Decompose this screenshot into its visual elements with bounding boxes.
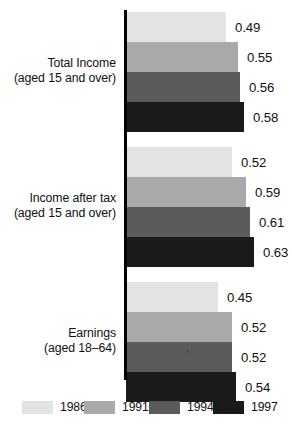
asterisk-annotation: * [186, 349, 189, 357]
bar-group: Earnings(aged 18–64)0.450.520.520.54 [0, 282, 292, 402]
legend-swatch-1994 [149, 401, 180, 414]
bar-value-label: 0.49 [235, 20, 260, 35]
bar-group: Total Income(aged 15 and over)0.490.550.… [0, 12, 292, 132]
legend-item-1991: 1991 [84, 396, 149, 418]
legend-label-1986: 1986 [60, 400, 87, 414]
legend-item-1994: 1994 [149, 396, 214, 418]
bar-1986 [126, 282, 218, 312]
bar-1997 [126, 102, 244, 132]
bar-group: Income after tax(aged 15 and over)0.520.… [0, 147, 292, 267]
bar-row: 0.58 [126, 102, 292, 132]
bar-value-label: 0.45 [227, 290, 252, 305]
legend-item-1986: 1986 [22, 396, 87, 418]
bar-1994 [126, 72, 240, 102]
legend-item-1997: 1997 [213, 396, 278, 418]
category-label: Earnings(aged 18–64) [0, 326, 116, 356]
bar-row: 0.56 [126, 72, 292, 102]
bar-value-label: 0.58 [253, 110, 278, 125]
bar-1991 [126, 177, 246, 207]
bar-1991 [126, 312, 232, 342]
bar-row: 0.52 [126, 312, 292, 342]
bar-value-label: 0.52 [241, 155, 266, 170]
legend-swatch-1986 [22, 401, 53, 414]
bar-1986 [126, 12, 226, 42]
category-label-line1: Total Income [47, 56, 116, 70]
bar-row: 0.55 [126, 42, 292, 72]
category-label: Income after tax(aged 15 and over) [0, 191, 116, 221]
legend-swatch-1991 [84, 401, 115, 414]
category-label: Total Income(aged 15 and over) [0, 56, 116, 86]
legend-label-1994: 1994 [187, 400, 214, 414]
bar-row: 0.61 [126, 207, 292, 237]
bar-row: 0.52 [126, 342, 292, 372]
value-axis-line [124, 10, 127, 380]
chart-legend: 1986199119941997 [0, 396, 292, 418]
category-label-line2: (aged 15 and over) [0, 206, 116, 221]
category-label-line1: Earnings [68, 326, 116, 340]
bar-1986 [126, 147, 232, 177]
bar-row: 0.52 [126, 147, 292, 177]
legend-swatch-1997 [213, 401, 244, 414]
bar-value-label: 0.52 [241, 320, 266, 335]
category-label-line2: (aged 18–64) [0, 341, 116, 356]
bar-1994 [126, 342, 232, 372]
bar-value-label: 0.55 [247, 50, 272, 65]
bar-1991 [126, 42, 238, 72]
bar-value-label: 0.63 [263, 245, 288, 260]
bar-1997 [126, 237, 254, 267]
category-label-line2: (aged 15 and over) [0, 71, 116, 86]
bar-value-label: 0.61 [259, 215, 284, 230]
bar-row: 0.45 [126, 282, 292, 312]
plot-area: Total Income(aged 15 and over)0.490.550.… [0, 0, 292, 388]
bar-row: 0.49 [126, 12, 292, 42]
legend-label-1991: 1991 [122, 400, 149, 414]
bar-value-label: 0.54 [245, 380, 270, 395]
bar-row: 0.63 [126, 237, 292, 267]
category-label-line1: Income after tax [29, 191, 116, 205]
bar-value-label: 0.56 [249, 80, 274, 95]
bar-chart: Total Income(aged 15 and over)0.490.550.… [0, 0, 292, 426]
bar-value-label: 0.52 [241, 350, 266, 365]
legend-label-1997: 1997 [251, 400, 278, 414]
bar-value-label: 0.59 [255, 185, 280, 200]
bar-row: 0.59 [126, 177, 292, 207]
bar-1994 [126, 207, 250, 237]
